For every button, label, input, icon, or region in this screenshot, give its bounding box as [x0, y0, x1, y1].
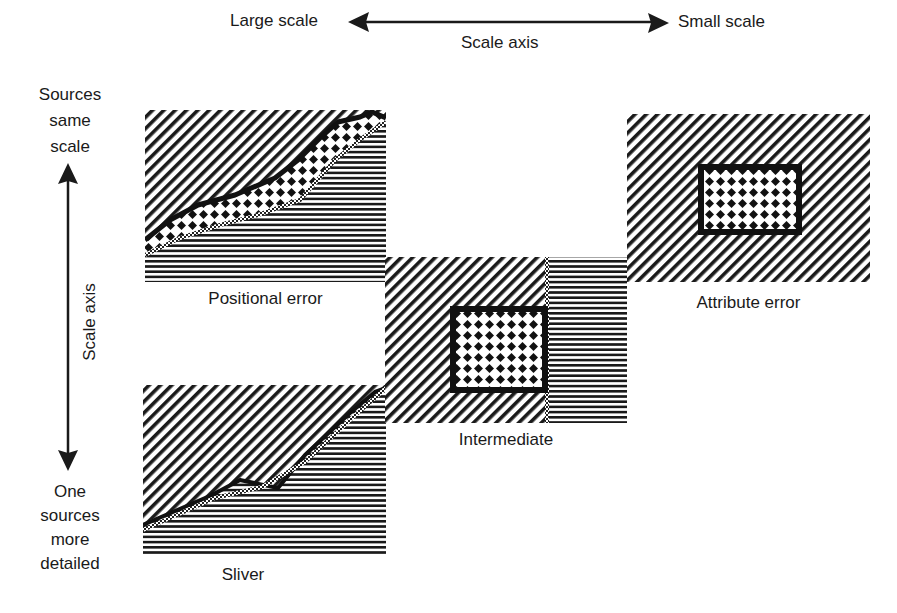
arrowhead-up-icon: [58, 163, 78, 184]
panel-attribute-error: [627, 114, 870, 282]
arrowhead-left-icon: [348, 12, 369, 32]
panel-intermediate: [385, 257, 627, 423]
arrowhead-down-icon: [58, 450, 78, 471]
positional-error-label: Positional error: [145, 289, 386, 309]
attribute-error-label: Attribute error: [627, 293, 870, 313]
horizontal-axis-label: Scale axis: [461, 33, 538, 53]
sources-same-scale-label: Sources same scale: [22, 82, 118, 160]
vertical-axis-label: Scale axis: [80, 274, 100, 370]
small-scale-label: Small scale: [678, 12, 765, 32]
arrowhead-right-icon: [648, 13, 669, 33]
large-scale-label: Large scale: [230, 11, 318, 31]
sliver-label: Sliver: [143, 565, 343, 585]
panel-sliver: [143, 385, 386, 555]
one-source-more-detailed-label: One sources more detailed: [22, 480, 118, 576]
vertical-scale-axis-arrow: [58, 163, 78, 471]
intermediate-label: Intermediate: [385, 430, 627, 450]
panel-positional-error: [145, 110, 386, 282]
horizontal-scale-axis-arrow: [348, 12, 669, 33]
